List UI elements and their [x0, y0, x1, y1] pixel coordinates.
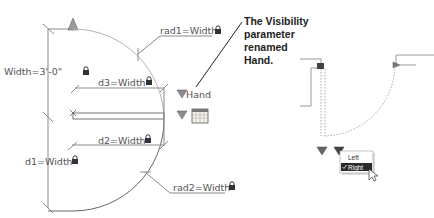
hinge-grip-icon[interactable] — [317, 63, 324, 69]
callout-line-2: parameter — [244, 28, 295, 40]
lookup-grip-icon[interactable] — [317, 147, 327, 155]
lock-icon — [215, 26, 221, 34]
rad2-label: rad2=Width — [173, 182, 230, 193]
callout-line-1: The Visibility — [244, 15, 309, 27]
callout-line-3: renamed — [244, 41, 288, 53]
lock-icon — [146, 77, 152, 85]
lookup-grip-icon[interactable] — [177, 111, 187, 119]
swing-arc-preview — [323, 66, 395, 136]
wall-line — [300, 68, 318, 106]
visibility-parameter-label: Hand — [186, 89, 211, 100]
lock-icon — [83, 67, 89, 75]
width-label: Width=3'-0" — [4, 66, 62, 77]
door-block-drawing: rad1=Width Width=3'-0" d3=Width d2=Width… — [0, 0, 434, 218]
block-preview: Left Right — [300, 55, 434, 181]
lookup-table-icon[interactable] — [192, 109, 208, 123]
lock-icon — [145, 135, 151, 143]
callout-line-4: Hand. — [244, 54, 273, 66]
rad2-leader — [145, 172, 170, 193]
rad1-label: rad1=Width — [160, 25, 217, 36]
rad1-leader — [138, 36, 160, 54]
menu-item-right-label: Right — [348, 164, 363, 172]
block-editor-view: rad1=Width Width=3'-0" d3=Width d2=Width… — [4, 18, 235, 213]
d3-label: d3=Width — [98, 77, 146, 88]
door-leaf — [73, 113, 164, 119]
lock-icon — [72, 156, 78, 164]
linear-grip-icon[interactable] — [68, 18, 78, 30]
wall-line — [396, 55, 434, 64]
menu-item-right[interactable]: Right — [341, 163, 372, 172]
menu-item-left[interactable]: Left — [348, 154, 359, 161]
dimension-tick — [68, 142, 77, 150]
d2-label: d2=Width — [98, 135, 146, 146]
menu-item-left-label: Left — [348, 154, 359, 161]
dimension-tick — [71, 85, 79, 93]
lock-icon — [229, 182, 235, 190]
d1-label: d1=Width — [25, 156, 73, 167]
